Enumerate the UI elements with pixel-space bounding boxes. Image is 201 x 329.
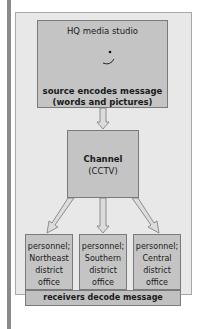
- receiver-southern: personnel; Southern district office: [79, 234, 127, 290]
- arrow-down-icon: [97, 108, 109, 129]
- face-icon: [103, 51, 114, 64]
- arrow-left-office-icon: [47, 198, 74, 233]
- receiver-central: personnel; Central district office: [133, 234, 181, 290]
- arrow-middle-office-icon: [97, 198, 109, 233]
- arrow-right-office-icon: [132, 198, 159, 233]
- channel-title: Channel: [68, 154, 138, 164]
- receiver-northeast: personnel; Northeast district office: [25, 234, 73, 290]
- channel-box: Channel (CCTV): [67, 130, 139, 198]
- channel-subtitle: (CCTV): [68, 166, 138, 176]
- receivers-caption: receivers decode message: [25, 290, 181, 306]
